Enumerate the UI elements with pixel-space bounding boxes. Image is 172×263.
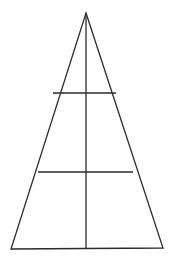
figure-canvas: [0, 0, 172, 263]
triangle-diagram: [0, 0, 172, 263]
